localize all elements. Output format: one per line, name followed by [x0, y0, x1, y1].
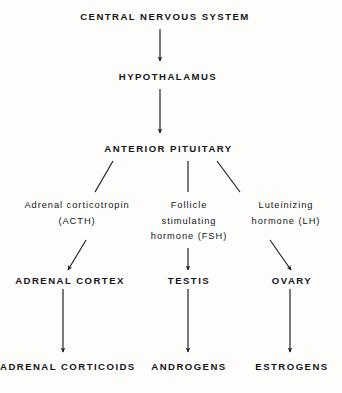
node-testis: TESTIS — [145, 276, 233, 286]
node-estrogens: ESTROGENS — [243, 362, 341, 372]
node-fsh: Follicle stimulating hormone (FSH) — [134, 198, 244, 245]
node-hypothalamus: HYPOTHALAMUS — [0, 72, 336, 82]
node-adrenal-corticoids: ADRENAL CORTICOIDS — [0, 362, 132, 372]
connector-layer — [0, 0, 342, 393]
line-anterior-pituitary-to-acth — [95, 161, 113, 192]
node-central-nervous-system: CENTRAL NERVOUS SYSTEM — [0, 12, 330, 22]
node-lh-line-1: Luteinizing — [232, 198, 340, 214]
node-acth-line-2: (ACTH) — [8, 214, 146, 230]
endocrine-axis-diagram: CENTRAL NERVOUS SYSTEM HYPOTHALAMUS ANTE… — [0, 0, 342, 393]
node-anterior-pituitary: ANTERIOR PITUITARY — [0, 144, 337, 154]
node-fsh-line-1: Follicle — [134, 198, 244, 214]
line-anterior-pituitary-to-lh — [217, 161, 240, 192]
node-androgens: ANDROGENS — [140, 362, 238, 372]
arrow-lh-to-ovary — [270, 240, 291, 270]
arrow-acth-to-adrenal-cortex — [68, 240, 86, 270]
node-lh: Luteinizing hormone (LH) — [232, 198, 340, 229]
node-acth-line-1: Adrenal corticotropin — [8, 198, 146, 214]
node-fsh-line-3: hormone (FSH) — [134, 229, 244, 245]
node-acth: Adrenal corticotropin (ACTH) — [8, 198, 146, 229]
node-ovary: OVARY — [248, 276, 336, 286]
node-adrenal-cortex: ADRENAL CORTEX — [7, 276, 133, 286]
node-lh-line-2: hormone (LH) — [232, 214, 340, 230]
node-fsh-line-2: stimulating — [134, 214, 244, 230]
